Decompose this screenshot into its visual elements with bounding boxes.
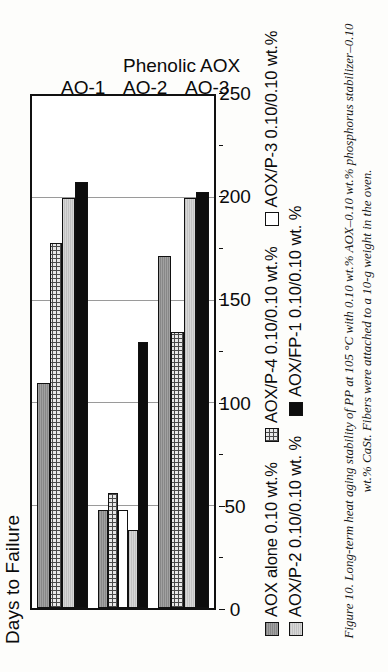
minor-tick — [219, 248, 223, 249]
value-axis-title: Days to Failure — [2, 515, 24, 644]
bar-ao-1-1 — [37, 383, 50, 608]
tick-label-0: 0 — [230, 599, 241, 621]
gridline — [32, 95, 214, 96]
minor-tick — [219, 557, 223, 558]
bar-ao-1-3 — [62, 198, 75, 608]
value-axis-tick-labels: 050100150200250 — [224, 94, 248, 610]
legend-item-1: AOX alone 0.10 wt.% — [262, 462, 281, 636]
legend-item-5: AOX/FP-1 0.10/0.10 wt. % — [286, 206, 305, 416]
bar-ao-1-4 — [75, 182, 88, 608]
legend-label: AOX/P-4 0.10/0.10 wt.% — [262, 246, 281, 423]
bar-ao-3-1 — [158, 256, 171, 608]
bar-ao-2-2 — [108, 493, 118, 608]
plot-block: Days to Failure 050100150200250 AO-1AO-2… — [14, 84, 250, 644]
legend-label: AOX alone 0.10 wt.% — [262, 462, 281, 617]
category-axis-title: Phenolic AOX — [123, 55, 240, 77]
legend-item-4: AOX/P-2 0.10/0.10 wt. % — [286, 436, 305, 636]
bar-ao-2-4 — [128, 530, 138, 608]
legend-item-3: AOX/P-3 0.10/0.10 wt.% — [262, 31, 281, 227]
legend-row-1: AOX alone 0.10 wt.%AOX/P-4 0.10/0.10 wt.… — [262, 80, 281, 636]
legend-swatch-icon — [289, 402, 303, 416]
tick-label-100: 100 — [219, 393, 251, 415]
bar-ao-1-2 — [50, 243, 63, 608]
bar-ao-2-1 — [98, 510, 108, 608]
legend-label: AOX/P-2 0.10/0.10 wt. % — [286, 436, 305, 617]
tick-label-250: 250 — [219, 83, 251, 105]
minor-tick — [219, 454, 223, 455]
legend-item-2: AOX/P-4 0.10/0.10 wt.% — [262, 246, 281, 442]
plot-area — [30, 94, 216, 610]
bar-ao-3-4 — [196, 192, 209, 608]
legend-label: AOX/P-3 0.10/0.10 wt.% — [262, 31, 281, 208]
tick-label-150: 150 — [219, 289, 251, 311]
minor-tick — [219, 351, 223, 352]
figure-10: Days to Failure 050100150200250 AO-1AO-2… — [0, 0, 388, 672]
legend-swatch-icon — [265, 622, 279, 636]
legend-swatch-icon — [265, 428, 279, 442]
tick-label-50: 50 — [224, 496, 245, 518]
bar-ao-3-2 — [171, 332, 184, 608]
legend-swatch-icon — [265, 212, 279, 226]
minor-tick — [219, 145, 223, 146]
tick-label-200: 200 — [219, 186, 251, 208]
legend-label: AOX/FP-1 0.10/0.10 wt. % — [286, 206, 305, 397]
bar-ao-3-3 — [184, 198, 197, 608]
chart-legend: AOX alone 0.10 wt.%AOX/P-4 0.10/0.10 wt.… — [262, 80, 310, 636]
rotated-figure-stage: Days to Failure 050100150200250 AO-1AO-2… — [0, 0, 388, 672]
bar-ao-2-3 — [118, 510, 128, 608]
bar-ao-2-5 — [138, 342, 148, 608]
figure-caption: Figure 10. Long-term heat aging stabilit… — [340, 20, 375, 642]
legend-swatch-icon — [289, 622, 303, 636]
legend-row-2: AOX/P-2 0.10/0.10 wt. %AOX/FP-1 0.10/0.1… — [286, 80, 305, 636]
value-axis-ticks — [219, 94, 220, 610]
